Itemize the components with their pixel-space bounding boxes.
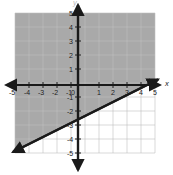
coordinate-plane-svg	[0, 0, 173, 175]
x-tick-label-4: 4	[139, 89, 143, 96]
x-tick-label--3: -3	[38, 89, 44, 96]
x-tick-label-2: 2	[111, 89, 115, 96]
x-tick-label-3: 3	[125, 89, 129, 96]
y-tick-label--1: -1	[67, 94, 73, 101]
y-tick-label--5: -5	[67, 150, 73, 157]
x-axis-label: x	[165, 80, 169, 88]
x-tick-label--4: -4	[24, 89, 30, 96]
y-tick-label--3: -3	[67, 122, 73, 129]
graph-figure: -5 -4 -3 -2 -1 0 1 2 3 4 5 5 4 3 2 1 -1 …	[0, 0, 173, 175]
y-tick-label-4: 4	[69, 24, 73, 31]
y-tick-label--4: -4	[67, 136, 73, 143]
y-tick-label-3: 3	[69, 38, 73, 45]
y-tick-label--2: -2	[67, 108, 73, 115]
x-tick-label--2: -2	[52, 89, 58, 96]
x-tick-label-5: 5	[153, 89, 157, 96]
y-tick-label-5: 5	[69, 10, 73, 17]
y-tick-label-2: 2	[69, 52, 73, 59]
y-axis-label: y	[73, 0, 77, 7]
x-tick-label--5: -5	[9, 89, 15, 96]
x-tick-label-1: 1	[97, 89, 101, 96]
y-tick-label-1: 1	[69, 66, 73, 73]
